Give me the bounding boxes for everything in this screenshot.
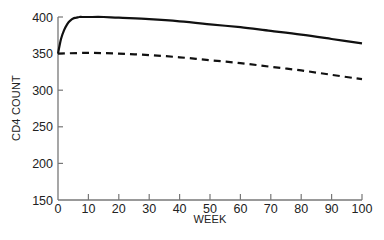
x-tick-label: 10: [81, 202, 95, 216]
dashed-line-series: [58, 53, 362, 79]
x-tick-label: 40: [173, 202, 187, 216]
y-tick-label: 400: [32, 11, 53, 25]
x-tick-label: 30: [142, 202, 156, 216]
y-tick-label: 200: [32, 157, 53, 171]
data-series: [58, 17, 362, 79]
x-tick-label: 80: [294, 202, 308, 216]
y-tick-label: 150: [32, 194, 53, 208]
y-axis-title: CD4 COUNT: [10, 75, 22, 141]
x-tick-label: 90: [325, 202, 339, 216]
x-axis-title: WEEK: [193, 213, 227, 225]
y-tick-label: 350: [32, 47, 53, 61]
x-tick-label: 60: [233, 202, 247, 216]
axis-ticks: 1502002503003504000102030405060708090100: [32, 11, 372, 217]
x-tick-label: 0: [55, 202, 62, 216]
x-tick-label: 100: [352, 202, 373, 216]
x-tick-label: 20: [112, 202, 126, 216]
y-tick-label: 300: [32, 84, 53, 98]
axes: [58, 17, 362, 200]
cd4-count-line-chart: 1502002503003504000102030405060708090100…: [0, 0, 384, 240]
solid-line-series: [58, 17, 362, 54]
y-tick-label: 250: [32, 120, 53, 134]
x-tick-label: 70: [264, 202, 278, 216]
